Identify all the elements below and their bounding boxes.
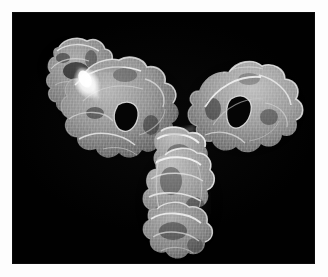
image-canvas (13, 13, 314, 263)
antibody-molecule-svg (13, 13, 314, 263)
molecule-render-stage (13, 13, 314, 263)
figure-frame (0, 0, 328, 277)
